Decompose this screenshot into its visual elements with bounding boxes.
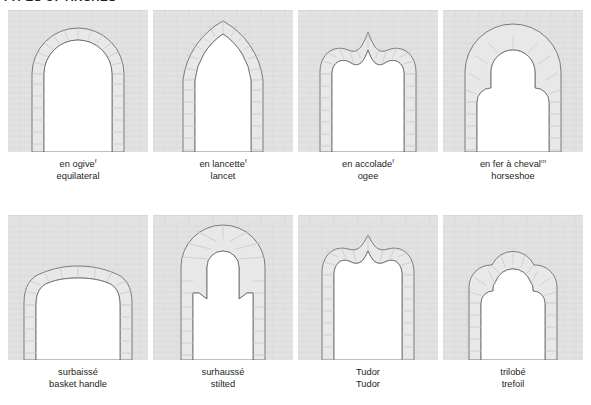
caption-french: surbaissé xyxy=(8,367,148,379)
arch-caption-stilted: surhaussé stilted xyxy=(153,360,293,390)
arch-cell-ogee: en accoladef ogee xyxy=(298,10,438,182)
page-title: TYPES OF ARCHES xyxy=(2,0,116,3)
gender-marker: f xyxy=(245,157,247,164)
caption-french: en fer à chevalm xyxy=(443,159,583,171)
caption-french: Tudor xyxy=(298,367,438,379)
horseshoe-arch-drawing xyxy=(443,10,583,152)
arch-caption-ogee: en accoladef ogee xyxy=(298,152,438,182)
arch-cell-horseshoe: en fer à chevalm horseshoe xyxy=(443,10,583,182)
arch-illustration-ogee xyxy=(298,10,438,152)
ogee-arch-drawing xyxy=(298,10,438,152)
arch-cell-trefoil: trilobé trefoil xyxy=(443,215,583,390)
arch-illustration-equilateral xyxy=(8,10,148,152)
caption-french: surhaussé xyxy=(153,367,293,379)
arch-cell-tudor: Tudor Tudor xyxy=(298,215,438,390)
caption-french: en lancettef xyxy=(153,159,293,171)
gender-marker: f xyxy=(95,157,97,164)
arch-caption-tudor: Tudor Tudor xyxy=(298,360,438,390)
caption-english: equilateral xyxy=(8,171,148,183)
caption-english: lancet xyxy=(153,171,293,183)
stilted-arch-drawing xyxy=(153,215,293,360)
arch-cell-lancet: en lancettef lancet xyxy=(153,10,293,182)
arch-caption-equilateral: en ogivef equilateral xyxy=(8,152,148,182)
arch-illustration-lancet xyxy=(153,10,293,152)
arch-illustration-trefoil xyxy=(443,215,583,360)
arch-cell-equilateral: en ogivef equilateral xyxy=(8,10,148,182)
types-of-arches-plate: TYPES OF ARCHES xyxy=(0,0,591,405)
caption-english: Tudor xyxy=(298,379,438,391)
arch-illustration-tudor xyxy=(298,215,438,360)
caption-french: trilobé xyxy=(443,367,583,379)
caption-english: ogee xyxy=(298,171,438,183)
caption-english: basket handle xyxy=(8,379,148,391)
caption-french: en ogivef xyxy=(8,159,148,171)
caption-english: trefoil xyxy=(443,379,583,391)
gender-marker: m xyxy=(541,157,546,164)
gender-marker: f xyxy=(392,157,394,164)
arch-caption-basket-handle: surbaissé basket handle xyxy=(8,360,148,390)
arch-illustration-horseshoe xyxy=(443,10,583,152)
trefoil-arch-drawing xyxy=(443,215,583,360)
arch-illustration-stilted xyxy=(153,215,293,360)
arch-cell-basket-handle: surbaissé basket handle xyxy=(8,215,148,390)
arch-cell-stilted: surhaussé stilted xyxy=(153,215,293,390)
basket-handle-arch-drawing xyxy=(8,215,148,360)
caption-english: horseshoe xyxy=(443,171,583,183)
arch-caption-horseshoe: en fer à chevalm horseshoe xyxy=(443,152,583,182)
equilateral-arch-drawing xyxy=(8,10,148,152)
caption-french: en accoladef xyxy=(298,159,438,171)
lancet-arch-drawing xyxy=(153,10,293,152)
caption-english: stilted xyxy=(153,379,293,391)
arch-caption-trefoil: trilobé trefoil xyxy=(443,360,583,390)
tudor-arch-drawing xyxy=(298,215,438,360)
arch-caption-lancet: en lancettef lancet xyxy=(153,152,293,182)
arch-illustration-basket-handle xyxy=(8,215,148,360)
